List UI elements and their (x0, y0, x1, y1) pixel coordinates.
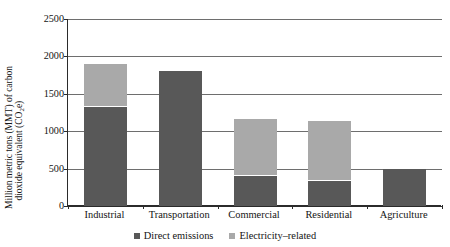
y-axis-title-line-1: Million metric tons (MMT) of carbon (3, 0, 14, 209)
bar-segment-direct-emissions[interactable] (383, 169, 426, 206)
plot-area (67, 19, 441, 206)
y-axis-title-line-2-post: e) (13, 101, 24, 108)
y-axis-tick-label: 0 (36, 201, 64, 211)
legend-item[interactable]: Direct emissions (134, 230, 214, 242)
bar-series-container (68, 19, 442, 206)
emissions-bar-chart: Million metric tons (MMT) of carbon diox… (0, 0, 450, 247)
x-axis-category-label: Transportation (142, 208, 217, 222)
axis-baseline (68, 206, 442, 207)
y-axis-tick-label: 2000 (36, 51, 64, 61)
square-marker-icon (134, 233, 140, 239)
legend-item-label: Direct emissions (144, 230, 214, 242)
square-marker-icon (229, 233, 235, 239)
x-axis-category-label: Residential (291, 208, 366, 222)
y-axis-title-line-2-pre: dioxide equivalent (CO (13, 112, 24, 201)
y-axis-tick-label: 2500 (36, 14, 64, 24)
bar-segment-direct-emissions[interactable] (308, 181, 351, 206)
x-axis-category-labels: IndustrialTransportationCommercialReside… (67, 208, 441, 224)
bar-segment-electricity-related[interactable] (84, 64, 127, 107)
x-axis-category-label: Agriculture (366, 208, 441, 222)
bar-segment-direct-emissions[interactable] (159, 71, 202, 206)
bar-group[interactable] (308, 19, 351, 206)
bar-group[interactable] (383, 19, 426, 206)
bar-group[interactable] (159, 19, 202, 206)
bar-segment-electricity-related[interactable] (308, 121, 351, 181)
y-axis-title: Million metric tons (MMT) of carbon diox… (0, 0, 38, 215)
chart-legend: Direct emissionsElectricity–related (0, 228, 450, 244)
bar-group[interactable] (234, 19, 277, 206)
bar-segment-direct-emissions[interactable] (234, 176, 277, 206)
bar-segment-electricity-related[interactable] (234, 119, 277, 177)
bar-group[interactable] (84, 19, 127, 206)
legend-item[interactable]: Electricity–related (229, 230, 316, 242)
y-axis-tick-label: 500 (36, 164, 64, 174)
y-axis-tick-label: 1500 (36, 89, 64, 99)
x-axis-category-label: Industrial (67, 208, 142, 222)
bar-segment-direct-emissions[interactable] (84, 107, 127, 206)
y-axis-tick-label: 1000 (36, 126, 64, 136)
x-axis-tick-mark (442, 205, 443, 209)
y-axis-tick-labels: 05001000150020002500 (36, 0, 64, 215)
y-axis-title-line-2: dioxide equivalent (CO2e) (13, 0, 26, 201)
x-axis-category-label: Commercial (217, 208, 292, 222)
y-axis-title-subscript: 2 (18, 109, 26, 112)
legend-item-label: Electricity–related (239, 230, 316, 242)
